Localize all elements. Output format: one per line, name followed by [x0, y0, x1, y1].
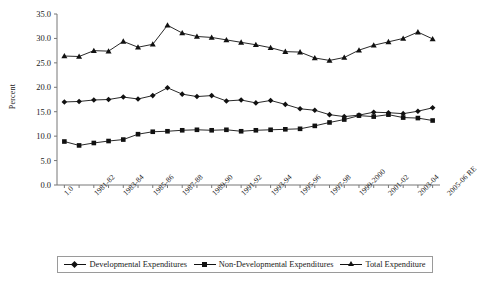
- data-point-marker: [253, 100, 259, 106]
- data-point-marker: [268, 98, 274, 104]
- data-point-marker: [238, 97, 244, 103]
- data-point-marker: [180, 128, 185, 133]
- data-point-marker: [327, 112, 333, 118]
- data-point-marker: [239, 129, 244, 134]
- data-point-marker: [327, 120, 332, 125]
- legend-item-developmental[interactable]: Developmental Expenditures: [64, 260, 186, 269]
- data-point-marker: [92, 141, 97, 146]
- diamond-marker-icon: [64, 260, 86, 269]
- data-point-marker: [342, 117, 347, 122]
- data-point-marker: [136, 132, 141, 137]
- data-point-marker: [283, 127, 288, 132]
- data-point-marker: [77, 143, 82, 148]
- chart-legend: Developmental Expenditures Non-Developme…: [57, 256, 433, 273]
- data-point-marker: [165, 85, 171, 91]
- square-marker-icon: [194, 260, 216, 269]
- data-point-marker: [121, 137, 126, 142]
- data-point-marker: [76, 99, 82, 105]
- data-point-marker: [150, 129, 155, 134]
- data-point-marker: [179, 30, 185, 35]
- data-point-marker: [415, 108, 421, 114]
- legend-label: Non-Developmental Expenditures: [219, 260, 334, 269]
- data-point-marker: [430, 105, 436, 111]
- data-point-marker: [120, 94, 126, 100]
- series-line: [64, 88, 432, 117]
- data-point-marker: [165, 129, 170, 134]
- data-point-marker: [415, 29, 421, 34]
- data-point-marker: [283, 102, 289, 108]
- data-point-marker: [224, 127, 229, 132]
- data-point-marker: [62, 139, 67, 144]
- data-point-marker: [62, 99, 68, 105]
- data-point-marker: [209, 128, 214, 133]
- data-point-marker: [135, 96, 141, 102]
- data-point-marker: [401, 115, 406, 120]
- data-point-marker: [298, 127, 303, 132]
- data-point-marker: [91, 97, 97, 103]
- series-line: [64, 25, 432, 60]
- legend-label: Developmental Expenditures: [89, 260, 186, 269]
- data-point-marker: [400, 35, 406, 40]
- data-point-marker: [164, 22, 170, 27]
- data-point-marker: [312, 124, 317, 129]
- data-point-marker: [106, 139, 111, 144]
- data-point-marker: [312, 107, 318, 113]
- data-point-marker: [312, 55, 318, 60]
- series-line: [64, 115, 432, 146]
- data-point-marker: [386, 112, 391, 117]
- legend-item-total[interactable]: Total Expenditure: [340, 260, 425, 269]
- data-point-marker: [106, 97, 112, 103]
- data-point-marker: [254, 128, 259, 133]
- data-point-marker: [150, 93, 156, 99]
- data-point-marker: [209, 93, 215, 99]
- data-point-marker: [416, 116, 421, 121]
- data-point-marker: [224, 98, 230, 104]
- legend-label: Total Expenditure: [365, 260, 425, 269]
- data-point-marker: [357, 113, 362, 118]
- data-point-marker: [371, 114, 376, 119]
- data-point-marker: [341, 54, 347, 59]
- triangle-marker-icon: [340, 260, 362, 269]
- data-point-marker: [430, 36, 436, 41]
- data-point-marker: [120, 38, 126, 43]
- data-point-marker: [195, 127, 200, 132]
- data-point-marker: [297, 106, 303, 112]
- legend-item-non-developmental[interactable]: Non-Developmental Expenditures: [194, 260, 334, 269]
- data-point-marker: [194, 94, 200, 100]
- data-point-marker: [268, 127, 273, 132]
- data-point-marker: [371, 109, 377, 115]
- data-point-marker: [430, 118, 435, 123]
- data-point-marker: [179, 91, 185, 97]
